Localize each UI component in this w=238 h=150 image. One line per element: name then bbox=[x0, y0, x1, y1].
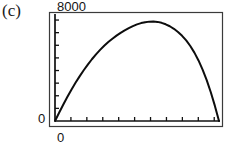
plot-canvas bbox=[0, 0, 238, 150]
figure-panel: (c) 8000 0 0 bbox=[0, 0, 238, 150]
plot-outer-frame bbox=[50, 13, 223, 127]
data-curve bbox=[55, 21, 219, 121]
